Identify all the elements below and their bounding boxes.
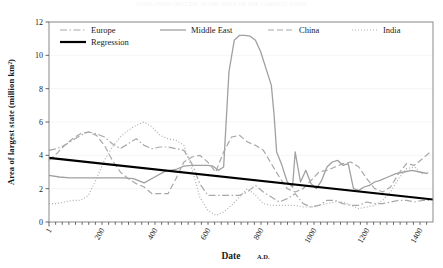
legend-label-middle-east: Middle East xyxy=(191,25,233,35)
y-axis-title: Area of largest state (million km²) xyxy=(6,59,16,185)
xtick-label: 1000 xyxy=(303,227,319,245)
xtick-label: 200 xyxy=(93,227,107,242)
xtick-label: 1400 xyxy=(409,227,425,245)
xtick-label: 800 xyxy=(252,227,266,242)
ytick-label: 4 xyxy=(39,151,43,160)
x-axis-title: Date xyxy=(222,251,241,261)
xtick-label: 1 xyxy=(44,227,54,235)
plot-area xyxy=(49,22,433,222)
chart-figure: LONG-TERM DECLINE IN THE AREA OF THE LAR… xyxy=(0,0,443,268)
chart-svg: 0246810121200400600800100012001400Area o… xyxy=(0,0,443,268)
legend-label-regression: Regression xyxy=(91,37,130,47)
cutoff-header-text: LONG-TERM DECLINE IN THE AREA OF THE LAR… xyxy=(0,1,443,7)
ytick-label: 0 xyxy=(39,218,43,227)
ytick-label: 6 xyxy=(39,118,43,127)
legend-label-india: India xyxy=(383,25,401,35)
x-axis-title-suffix: A.D. xyxy=(257,253,270,260)
legend-label-europe: Europe xyxy=(91,25,116,35)
ytick-label: 2 xyxy=(39,185,43,194)
ytick-label: 12 xyxy=(35,18,43,27)
xtick-label: 1200 xyxy=(356,227,372,245)
ytick-label: 10 xyxy=(35,51,43,60)
xtick-label: 400 xyxy=(146,227,160,242)
legend-label-china: China xyxy=(299,25,320,35)
xtick-label: 600 xyxy=(199,227,213,242)
ytick-label: 8 xyxy=(39,85,43,94)
